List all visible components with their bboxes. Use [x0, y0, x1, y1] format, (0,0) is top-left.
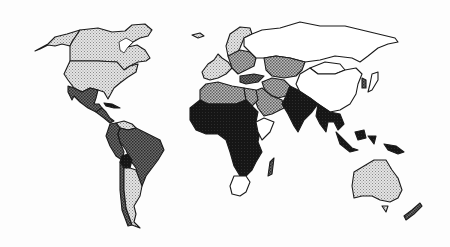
region-sahel-west-central	[190, 100, 262, 176]
region-central-america	[96, 108, 114, 123]
region-tasmania	[382, 206, 388, 212]
region-caribbean	[104, 103, 120, 108]
region-indonesia	[336, 130, 376, 152]
region-australia	[352, 160, 402, 202]
region-north-africa	[200, 82, 246, 104]
region-russia	[244, 22, 398, 62]
region-western-europe	[202, 54, 232, 80]
region-new-zealand	[404, 203, 422, 220]
region-korea	[362, 78, 366, 88]
world-map	[0, 0, 450, 247]
region-japan	[368, 72, 378, 92]
region-south-africa	[230, 176, 250, 196]
region-madagascar	[268, 158, 274, 176]
world-map-svg	[0, 0, 450, 247]
region-mexico	[68, 86, 102, 112]
region-turkey	[240, 74, 264, 84]
region-iceland	[192, 33, 204, 38]
region-papua-new-guinea	[384, 144, 404, 154]
